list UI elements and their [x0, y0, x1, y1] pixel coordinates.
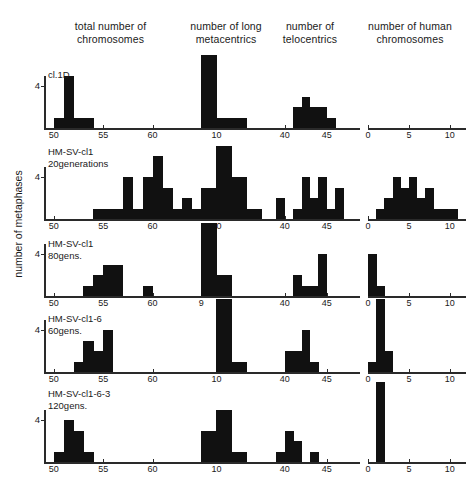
histogram-panel: 4045: [268, 382, 366, 474]
histogram-bar: [83, 452, 93, 463]
histogram-bar: [327, 118, 336, 129]
histogram-bar: [54, 452, 64, 463]
histogram-bar: [162, 188, 172, 220]
histogram-bar: [103, 330, 113, 372]
x-axis-tick-label: 60: [141, 464, 165, 474]
x-axis-tick-label: 10: [204, 464, 228, 474]
histogram-bar: [318, 254, 327, 296]
x-axis-tick-label: 55: [91, 464, 115, 474]
y-axis-tick: [41, 86, 45, 87]
x-axis-tick: [368, 459, 369, 462]
y-axis-tick-label: 4: [26, 324, 40, 335]
x-axis-tick-label: 0: [356, 464, 380, 474]
histogram-bar: [335, 188, 344, 220]
histogram-bar: [232, 362, 248, 373]
y-axis-tick: [41, 254, 45, 255]
y-axis-line: [44, 320, 46, 373]
x-axis-tick-label: 10: [438, 464, 462, 474]
histogram-bar: [310, 362, 319, 373]
x-axis-tick: [103, 125, 104, 128]
histogram-panel: 0510: [368, 48, 470, 140]
histogram-bar: [54, 118, 64, 129]
histogram-panel: 0510: [368, 382, 470, 474]
histogram-bar: [83, 118, 93, 129]
x-axis-tick: [409, 459, 410, 462]
histogram-bar: [216, 146, 232, 220]
histogram-bar: [232, 177, 248, 219]
row-label: HM-SV-cl1-6-3120gens.: [48, 388, 110, 411]
histogram-bar: [384, 351, 393, 372]
histogram-bar: [123, 177, 133, 219]
x-axis-tick: [327, 369, 328, 372]
histogram-panel: 10: [186, 48, 276, 140]
y-axis-tick-label: 4: [26, 414, 40, 425]
histogram-bar: [153, 156, 163, 219]
column-title-telocentrics: number oftelocentrics: [266, 20, 354, 46]
x-axis-line: [44, 462, 200, 464]
y-axis-tick: [41, 420, 45, 421]
histogram-panel: 4045: [268, 48, 366, 140]
y-axis-tick: [41, 330, 45, 331]
x-axis-tick: [285, 125, 286, 128]
histogram-bar: [83, 341, 93, 373]
x-axis-tick: [153, 459, 154, 462]
histogram-panel: 10: [186, 382, 276, 474]
x-axis-tick: [153, 125, 154, 128]
histogram-bar: [201, 55, 217, 129]
histogram-bar: [201, 223, 217, 297]
y-axis-line: [44, 167, 46, 220]
x-axis-tick-label: 40: [273, 464, 297, 474]
x-axis-tick: [327, 459, 328, 462]
histogram-panel: 4505560: [44, 48, 206, 140]
histogram-bar: [216, 118, 232, 129]
histogram-bar: [310, 452, 319, 463]
y-axis-tick-label: 4: [26, 248, 40, 259]
histogram-bar: [232, 118, 248, 129]
x-axis-tick: [450, 459, 451, 462]
column-title-long-metacentrics: number of longmetacentrics: [180, 20, 272, 46]
row-label: cl.1D: [48, 69, 70, 81]
row-label: HM-SV-cl180gens.: [48, 238, 93, 261]
histogram-bar: [93, 351, 103, 372]
histogram-bar: [74, 118, 84, 129]
column-title-total-chromosomes: total number ofchromosomes: [43, 20, 178, 46]
histogram-bar: [64, 76, 74, 129]
x-axis-tick-label: 50: [42, 464, 66, 474]
histogram-bar: [216, 410, 232, 463]
histogram-panel: 4045: [268, 292, 366, 384]
x-axis-line: [44, 372, 200, 374]
row-label: HM-SV-cl1-660gens.: [48, 313, 102, 336]
histogram-bar: [74, 362, 84, 373]
histogram-bar: [376, 382, 385, 462]
y-axis-line: [44, 76, 46, 129]
y-axis-tick-label: 4: [26, 80, 40, 91]
x-axis-line: [44, 128, 200, 130]
x-axis-tick: [450, 125, 451, 128]
histogram-panel: 0510: [368, 292, 470, 384]
column-title-human-chromosomes: number of humanchromosomes: [358, 20, 462, 46]
x-axis-tick-label: 5: [397, 464, 421, 474]
x-axis-tick-label: 45: [315, 464, 339, 474]
y-axis-line: [44, 410, 46, 463]
y-axis-line: [44, 244, 46, 297]
y-axis-label: number of metaphases: [12, 159, 24, 289]
x-axis-tick: [450, 369, 451, 372]
x-axis-tick: [409, 369, 410, 372]
x-axis-tick: [409, 125, 410, 128]
histogram-panel: 4505560: [44, 292, 206, 384]
x-axis-tick: [153, 369, 154, 372]
histogram-bar: [74, 431, 84, 463]
histogram-panel: 10: [186, 292, 276, 384]
histogram-bar: [64, 420, 74, 462]
histogram-bar: [143, 177, 153, 219]
histogram-bar: [216, 299, 232, 373]
histogram-bar: [232, 452, 248, 463]
histogram-bar: [201, 431, 217, 463]
x-axis-tick: [54, 369, 55, 372]
histogram-bar: [293, 441, 302, 462]
row-label: HM-SV-cl120generations: [48, 146, 108, 169]
y-axis-tick-label: 4: [26, 171, 40, 182]
y-axis-tick: [41, 177, 45, 178]
x-axis-tick: [103, 459, 104, 462]
